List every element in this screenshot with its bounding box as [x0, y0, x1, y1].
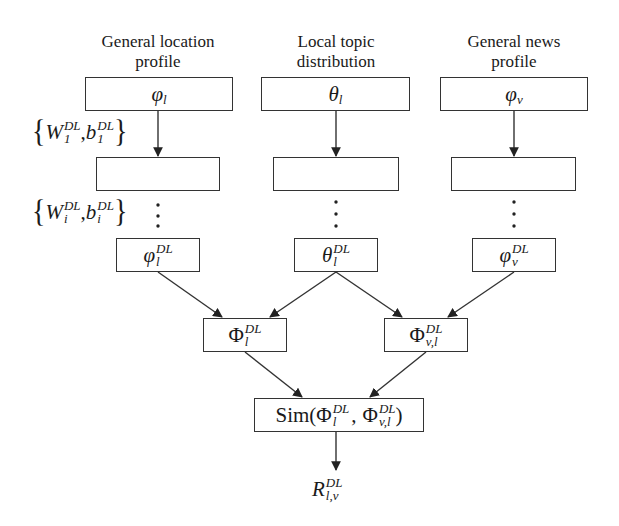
title-line: distribution: [256, 52, 416, 72]
symbol: Φ: [363, 403, 378, 428]
supsub: DLi: [64, 199, 81, 225]
title-line: General location: [78, 32, 238, 52]
supsub: DLv,l: [426, 322, 443, 348]
title-local-topic-distribution: Local topic distribution: [256, 32, 416, 72]
sub: v: [512, 255, 529, 268]
title-line: General news: [434, 32, 594, 52]
title-line: Local topic: [256, 32, 416, 52]
input-box-topic: θl: [261, 77, 410, 111]
symbol: φ: [505, 82, 517, 107]
brace-close: }: [114, 114, 127, 151]
hidden-layer-box-location: [96, 157, 220, 191]
supsub: DLl: [156, 242, 173, 268]
symbol: Φ: [316, 403, 331, 428]
symbol: θ: [329, 82, 339, 107]
sub: l: [245, 335, 262, 348]
combined-location-box: ΦDLl: [203, 318, 287, 352]
title-general-news-profile: General news profile: [434, 32, 594, 72]
combined-news-location-box: ΦDLv,l: [384, 318, 468, 352]
supsub: DLl,v: [326, 476, 343, 502]
bias-symbol: b: [86, 200, 97, 225]
sub: i: [97, 212, 114, 225]
subscript: l: [163, 92, 167, 108]
param-layer-1: { W DL1 , b DL1 }: [32, 116, 127, 148]
symbol: φ: [143, 243, 155, 268]
title-general-location-profile: General location profile: [78, 32, 238, 72]
input-box-location: φl: [85, 77, 233, 111]
param-layer-i: { W DLi , b DLi }: [32, 196, 127, 228]
hidden-layer-box-news: [451, 157, 576, 191]
sub: 1: [64, 132, 81, 145]
supsub: DLv,l: [379, 402, 396, 428]
title-line: profile: [78, 52, 238, 72]
sub: l: [156, 255, 173, 268]
symbol: Φ: [410, 323, 425, 348]
supsub: DLl: [333, 242, 350, 268]
dl-output-box-news: φDLv: [472, 238, 556, 272]
brace-open: {: [32, 194, 45, 231]
sub: 1: [97, 132, 114, 145]
symbol: θ: [322, 243, 332, 268]
input-box-news: φv: [440, 77, 588, 111]
supsub: DL1: [97, 119, 114, 145]
sub: l,v: [326, 489, 343, 502]
similarity-box: Sim(ΦDLl,ΦDLv,l): [254, 398, 424, 432]
close-paren: ): [396, 403, 403, 428]
weight-symbol: W: [45, 200, 63, 225]
symbol: R: [312, 477, 325, 502]
title-line: profile: [434, 52, 594, 72]
sim-function: Sim(: [275, 403, 316, 428]
supsub: DLl: [245, 322, 262, 348]
sub: l: [333, 415, 350, 428]
brace-close: }: [114, 194, 127, 231]
dl-output-box-topic: θDLl: [294, 238, 378, 272]
supsub: DLv: [512, 242, 529, 268]
symbol: φ: [499, 243, 511, 268]
separator: ,: [351, 403, 356, 428]
result-label: RDLl,v: [312, 476, 342, 502]
supsub: DLi: [97, 199, 114, 225]
subscript: l: [339, 92, 343, 108]
supsub: DL1: [64, 119, 81, 145]
supsub: DLl: [333, 402, 350, 428]
symbol: Φ: [229, 323, 244, 348]
brace-open: {: [32, 114, 45, 151]
symbol: φ: [151, 82, 163, 107]
sub: l: [333, 255, 350, 268]
weight-symbol: W: [45, 120, 63, 145]
sub: v,l: [426, 335, 443, 348]
dl-output-box-location: φDLl: [116, 238, 200, 272]
hidden-layer-box-topic: [273, 157, 399, 191]
bias-symbol: b: [86, 120, 97, 145]
sub: v,l: [379, 415, 396, 428]
sub: i: [64, 212, 81, 225]
subscript: v: [517, 92, 523, 108]
